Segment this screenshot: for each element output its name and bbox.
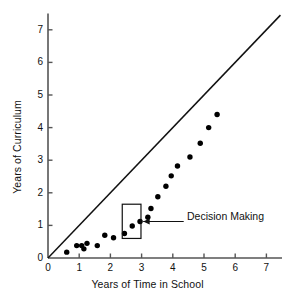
- y-tick-label: 1: [29, 219, 43, 230]
- x-tick-label: 2: [103, 262, 117, 273]
- chart-container: 01234567 01234567 Years of Time in Schoo…: [0, 0, 295, 294]
- y-tick-label: 5: [29, 89, 43, 100]
- x-tick-label: 5: [197, 262, 211, 273]
- x-tick-label: 7: [259, 262, 273, 273]
- y-tick-label: 4: [29, 122, 43, 133]
- y-tick-label: 3: [29, 154, 43, 165]
- y-tick-label: 7: [29, 24, 43, 35]
- x-tick-label: 3: [135, 262, 149, 273]
- scatter-plot-svg: [0, 0, 295, 294]
- y-axis-title: Years of Curriculum: [11, 72, 23, 222]
- y-tick-label: 6: [29, 56, 43, 67]
- x-tick-label: 0: [41, 262, 55, 273]
- x-tick-label: 6: [228, 262, 242, 273]
- annotation-label-decision-making: Decision Making: [187, 210, 264, 222]
- y-tick-label: 2: [29, 187, 43, 198]
- x-axis-title: Years of Time in School: [0, 278, 295, 290]
- y-tick-label: 0: [29, 252, 43, 263]
- x-tick-label: 1: [72, 262, 86, 273]
- x-tick-label: 4: [166, 262, 180, 273]
- data-point-series: [64, 112, 220, 255]
